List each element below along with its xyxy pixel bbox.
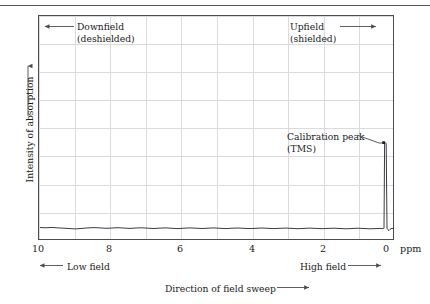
x-tick-2: 2 (311, 243, 335, 254)
sweep-direction-label: Direction of field sweep (165, 283, 276, 294)
downfield-label-line1: Downfield (77, 21, 135, 33)
nmr-spectrum-figure: Downfield (deshielded) Upfield (shielded… (0, 0, 430, 304)
downfield-label-line2: (deshielded) (77, 33, 135, 45)
y-axis-label: Intensity of absorption (18, 40, 37, 220)
x-tick-0: 0 (374, 243, 398, 254)
high-field-label: High field (300, 261, 346, 272)
upfield-label-line1: Upfield (290, 21, 336, 33)
downfield-annotation: Downfield (deshielded) (77, 21, 135, 44)
low-field-label: Low field (67, 261, 110, 272)
x-tick-10: 10 (26, 243, 50, 254)
x-tick-8: 8 (97, 243, 121, 254)
calibration-peak-annotation: Calibration peak (TMS) (287, 131, 365, 154)
x-tick-4: 4 (240, 243, 264, 254)
x-axis-unit: ppm (400, 243, 421, 254)
upfield-annotation: Upfield (shielded) (290, 21, 336, 44)
upfield-label-line2: (shielded) (290, 33, 336, 45)
spectrum-trace-svg (38, 15, 394, 240)
calibration-label-line2: (TMS) (287, 143, 365, 155)
calibration-label-line1: Calibration peak (287, 131, 365, 143)
y-axis-label-text: Intensity of absorption (24, 77, 35, 183)
baseline-trace (40, 143, 394, 231)
top-horizontal-rule (0, 5, 430, 6)
x-tick-6: 6 (168, 243, 192, 254)
